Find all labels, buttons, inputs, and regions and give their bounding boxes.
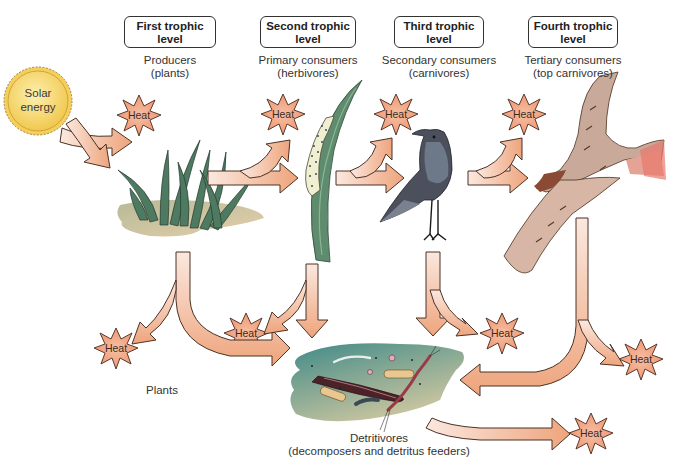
level-title: level bbox=[395, 33, 483, 46]
detritivores-caption: Detritivores (decomposers and detritus f… bbox=[274, 432, 484, 458]
detritivores-title: Detritivores bbox=[274, 432, 484, 445]
energy-arrow-3-to-4 bbox=[468, 138, 528, 193]
level-subtitle: (plants) bbox=[120, 67, 220, 80]
svg-text:Heat: Heat bbox=[235, 327, 257, 339]
level-subtitle-second: Primary consumers (herbivores) bbox=[248, 54, 368, 80]
level-subtitle-third: Secondary consumers (carnivores) bbox=[376, 54, 502, 80]
level-subtitle: Primary consumers bbox=[248, 54, 368, 67]
level-subtitle-first: Producers (plants) bbox=[120, 54, 220, 80]
producers-grass bbox=[117, 140, 264, 236]
detritivores-illustration bbox=[290, 343, 464, 432]
level-title: First trophic bbox=[125, 20, 215, 33]
solar-energy-arrow bbox=[60, 118, 132, 168]
level-subtitle: Producers bbox=[120, 54, 220, 67]
heat-icon: Heat bbox=[502, 94, 546, 135]
heat-icon: Heat bbox=[94, 328, 138, 369]
level-title: Second trophic bbox=[261, 20, 355, 33]
level-subtitle: Secondary consumers bbox=[376, 54, 502, 67]
level-subtitle: (herbivores) bbox=[248, 67, 368, 80]
svg-text:Heat: Heat bbox=[580, 427, 602, 439]
level-title: Third trophic bbox=[395, 20, 483, 33]
level-box-third: Third trophic level bbox=[394, 16, 484, 48]
svg-text:Heat: Heat bbox=[513, 108, 535, 120]
level-title: level bbox=[125, 33, 215, 46]
level-subtitle-fourth: Tertiary consumers (top carnivores) bbox=[513, 54, 633, 80]
detritivores-subtitle: (decomposers and detritus feeders) bbox=[274, 445, 484, 458]
level-subtitle: Tertiary consumers bbox=[513, 54, 633, 67]
heat-icon: Heat bbox=[374, 94, 418, 135]
svg-text:Heat: Heat bbox=[491, 327, 513, 339]
heat-icon: Heat bbox=[569, 413, 613, 454]
level-subtitle: (carnivores) bbox=[376, 67, 502, 80]
heat-icon: Heat bbox=[261, 94, 305, 135]
energy-arrow-2-to-3 bbox=[336, 138, 404, 193]
svg-text:Heat: Heat bbox=[128, 109, 150, 121]
level-title: level bbox=[261, 33, 355, 46]
svg-text:Heat: Heat bbox=[630, 353, 652, 365]
sun-label-line1: Solar bbox=[25, 87, 52, 99]
level-box-fourth: Fourth trophic level bbox=[528, 16, 618, 48]
level-subtitle: (top carnivores) bbox=[513, 67, 633, 80]
sun-label-line2: energy bbox=[20, 101, 55, 113]
heat-icon: Heat bbox=[619, 339, 663, 380]
level-box-first: First trophic level bbox=[124, 16, 216, 48]
carnivore-down-arrows bbox=[416, 252, 478, 336]
svg-text:Heat: Heat bbox=[385, 108, 407, 120]
level-box-second: Second trophic level bbox=[260, 16, 356, 48]
heat-icon: Heat bbox=[480, 313, 524, 354]
svg-text:Heat: Heat bbox=[272, 108, 294, 120]
level-title: Fourth trophic bbox=[529, 20, 617, 33]
plants-caption: Plants bbox=[146, 384, 178, 397]
level-title: level bbox=[529, 33, 617, 46]
plants-to-detritus-arrow bbox=[132, 252, 290, 366]
svg-text:Heat: Heat bbox=[105, 342, 127, 354]
trophic-diagram: Heat Heat Heat Heat Heat Heat Heat Heat … bbox=[0, 0, 674, 464]
heat-icon: Heat bbox=[117, 95, 161, 136]
herbivore-down-arrows bbox=[264, 264, 328, 338]
energy-arrow-1-to-2 bbox=[208, 140, 298, 193]
